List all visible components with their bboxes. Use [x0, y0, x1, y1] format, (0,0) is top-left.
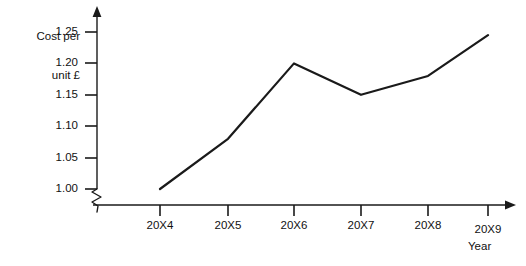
x-tick-label: 20X7 [339, 219, 383, 231]
x-tick-label: 20X5 [206, 219, 250, 231]
data-series-line [160, 35, 488, 189]
y-tick-label: 1.20 [44, 56, 78, 68]
y-tick-label: 1.10 [44, 119, 78, 131]
x-tick-label: 20X9 [466, 223, 510, 235]
line-chart: Cost per unit £ 1.25 1.20 1.15 1.10 1.05… [0, 0, 526, 266]
y-tick-label: 1.15 [44, 88, 78, 100]
x-axis-ticks [160, 205, 488, 216]
x-tick-label: 20X6 [272, 219, 316, 231]
y-axis-arrow-icon [93, 6, 102, 17]
y-axis-break-icon [92, 189, 101, 212]
y-tick-label: 1.25 [44, 25, 78, 37]
x-axis-title: Year [468, 240, 491, 253]
x-tick-label: 20X4 [138, 219, 182, 231]
x-axis-arrow-icon [505, 201, 516, 210]
y-axis-ticks [85, 32, 97, 189]
x-tick-label: 20X8 [406, 219, 450, 231]
y-axis-title-line2: unit £ [4, 69, 80, 82]
y-tick-label: 1.00 [44, 182, 78, 194]
y-tick-label: 1.05 [44, 151, 78, 163]
